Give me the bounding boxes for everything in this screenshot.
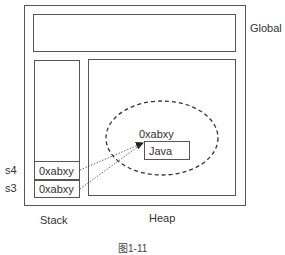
figure-caption: 图1-11 (118, 240, 147, 255)
heap-object-value: Java (149, 145, 172, 157)
heap-object-address: 0xabxy (139, 129, 174, 140)
heap-object-java: Java (144, 141, 190, 160)
